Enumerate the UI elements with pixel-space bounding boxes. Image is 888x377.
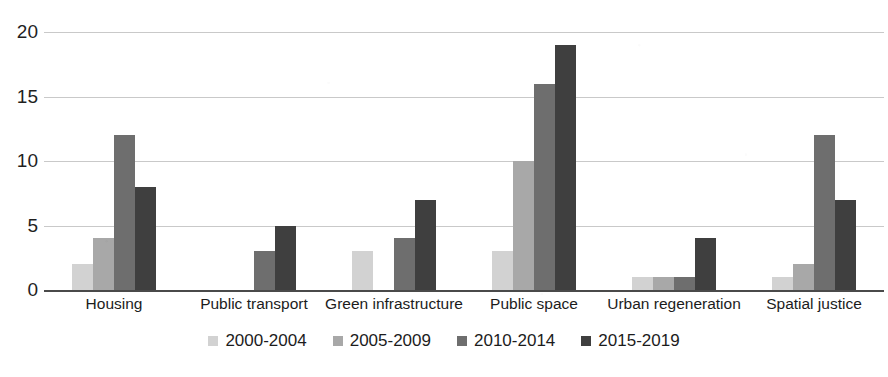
legend-item[interactable]: 2000-2004 [208, 332, 306, 349]
legend-item[interactable]: 2005-2009 [333, 332, 431, 349]
bar-group [744, 32, 884, 290]
y-tick-label-10: 10 [0, 151, 38, 170]
bar [772, 277, 793, 290]
axis-zero-line [44, 290, 884, 292]
bar-chart: 05101520 HousingPublic transportGreen in… [0, 0, 888, 377]
legend-item[interactable]: 2010-2014 [457, 332, 555, 349]
bar [275, 226, 296, 291]
bar [695, 238, 716, 290]
legend-swatch-icon [208, 336, 218, 346]
bar [415, 200, 436, 290]
legend-label: 2010-2014 [474, 332, 555, 349]
legend-label: 2005-2009 [350, 332, 431, 349]
legend-swatch-icon [333, 336, 343, 346]
plot-area [44, 32, 884, 290]
legend-item[interactable]: 2015-2019 [581, 332, 679, 349]
legend-label: 2000-2004 [225, 332, 306, 349]
x-axis-label: Public space [464, 294, 604, 314]
bar [674, 277, 695, 290]
bar [254, 251, 275, 290]
bars-layer [44, 32, 884, 290]
bar-group [604, 32, 744, 290]
legend-label: 2015-2019 [598, 332, 679, 349]
legend-swatch-icon [457, 336, 467, 346]
bar [72, 264, 93, 290]
bar [793, 264, 814, 290]
bar [632, 277, 653, 290]
bar [555, 45, 576, 290]
bar-group [44, 32, 184, 290]
bar-group [184, 32, 324, 290]
bar [135, 187, 156, 290]
x-axis-label: Urban regeneration [604, 294, 744, 314]
bar-group [464, 32, 604, 290]
bar [534, 84, 555, 290]
bar [394, 238, 415, 290]
bar [114, 135, 135, 290]
x-axis-label: Green infrastructure [324, 294, 464, 314]
legend-swatch-icon [581, 336, 591, 346]
x-axis-label: Public transport [184, 294, 324, 314]
bar [492, 251, 513, 290]
x-axis-label: Spatial justice [744, 294, 884, 314]
x-axis-label: Housing [44, 294, 184, 314]
bar [653, 277, 674, 290]
y-tick-label-0: 0 [0, 280, 38, 299]
bar [513, 161, 534, 290]
y-tick-label-5: 5 [0, 216, 38, 235]
y-tick-label-15: 15 [0, 87, 38, 106]
x-axis-category-labels: HousingPublic transportGreen infrastruct… [44, 294, 884, 318]
y-tick-label-20: 20 [0, 22, 38, 41]
chart-legend: 2000-20042005-20092010-20142015-2019 [0, 332, 888, 349]
bar [352, 251, 373, 290]
bar-group [324, 32, 464, 290]
bar [814, 135, 835, 290]
bar [835, 200, 856, 290]
y-axis-tick-labels: 05101520 [0, 0, 40, 377]
bar [93, 238, 114, 290]
